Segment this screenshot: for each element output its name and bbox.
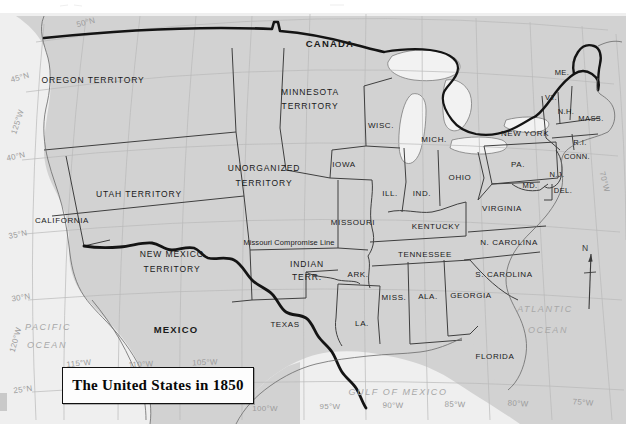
map-figure: CANADAMEXICOOREGON TERRITORYMINNESOTATER… — [0, 0, 626, 424]
map-title-box: The United States in 1850 — [62, 367, 254, 404]
compass-rose: N — [578, 243, 600, 315]
map-canvas — [0, 0, 626, 424]
compass-north-label: N — [582, 243, 588, 253]
map-title: The United States in 1850 — [72, 377, 244, 394]
scan-edge-tab — [0, 393, 7, 411]
page-margin-top — [0, 0, 626, 13]
compass-needle — [578, 243, 600, 315]
